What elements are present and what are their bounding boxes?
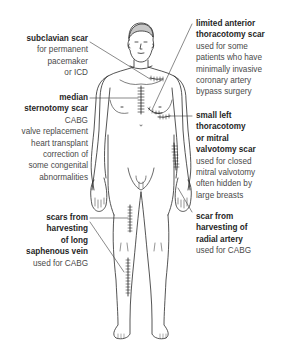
label-desc-line: valve replacement (2, 126, 88, 137)
label-desc-line: mitral valvotomy (196, 167, 282, 178)
label-desc-line: used for closed (196, 156, 282, 167)
leader-radial (178, 188, 192, 212)
label-title: valvotomy scar (196, 144, 282, 155)
label-desc-line: often hidden by (196, 178, 282, 189)
label-median-sternotomy-scar: median sternotomy scar CABG valve replac… (2, 92, 88, 183)
label-title: harvesting of (196, 222, 282, 233)
label-desc-line: heart transplant (2, 138, 88, 149)
label-saphenous-vein-scars: scars from harvesting of long saphenous … (2, 212, 88, 269)
label-desc-line: minimally invasive (196, 64, 282, 75)
label-title: saphenous vein (2, 246, 88, 257)
label-desc-line: or ICD (2, 67, 88, 78)
label-desc-line: patients who have (196, 52, 282, 63)
small-left-thoracotomy-scar (158, 114, 170, 119)
label-subclavian-scar: subclavian scar for permanent pacemaker … (2, 33, 88, 79)
label-desc-line: abnormalities (2, 172, 88, 183)
label-radial-artery-scar: scar from harvesting of radial artery us… (196, 211, 282, 257)
label-title: thoracotomy (196, 121, 282, 132)
label-desc-line: coronary artery (196, 75, 282, 86)
label-desc-line: used for CABG (196, 245, 282, 256)
label-desc-line: for permanent (2, 44, 88, 55)
label-title: median (2, 92, 88, 103)
label-title: small left (196, 110, 282, 121)
median-sternotomy-scar (138, 86, 144, 114)
label-title: scars from (2, 212, 88, 223)
saphenous-vein-scar-calf (126, 258, 130, 296)
label-desc-line: large breasts (196, 190, 282, 201)
label-title: subclavian scar (2, 33, 88, 44)
radial-artery-scar (172, 143, 179, 170)
limited-anterior-thoracotomy-scar (148, 107, 162, 114)
label-title: scar from (196, 211, 282, 222)
label-desc-line: bypass surgery (196, 86, 282, 97)
legs (113, 192, 169, 339)
label-desc-line: correction of (2, 149, 88, 160)
scar-diagram: subclavian scar for permanent pacemaker … (0, 0, 282, 348)
label-limited-anterior-thoracotomy-scar: limited anterior thoracotomy scar used f… (196, 18, 282, 98)
label-title: of long (2, 235, 88, 246)
label-title: thoracotomy scar (196, 29, 282, 40)
label-desc-line: used for some (196, 41, 282, 52)
label-title: sternotomy scar (2, 103, 88, 114)
label-desc-line: some congenital (2, 160, 88, 171)
head (128, 23, 154, 62)
label-title: radial artery (196, 234, 282, 245)
label-desc-line: used for CABG (2, 258, 88, 269)
leader-saphenous-calf (90, 222, 124, 272)
saphenous-vein-scar-thigh (128, 205, 132, 232)
label-small-left-thoracotomy-scar: small left thoracotomy or mitral valvoto… (196, 110, 282, 201)
label-desc-line: pacemaker (2, 56, 88, 67)
label-desc-line: CABG (2, 115, 88, 126)
label-title: or mitral (196, 133, 282, 144)
label-title: limited anterior (196, 18, 282, 29)
label-title: harvesting (2, 223, 88, 234)
